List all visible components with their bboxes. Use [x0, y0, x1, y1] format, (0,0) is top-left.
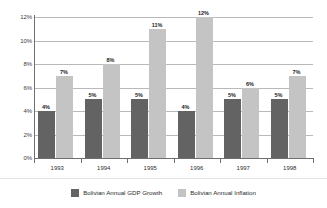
bar-value-label: 7% — [52, 69, 76, 75]
legend-swatch-icon — [71, 189, 79, 197]
x-axis-tick-mark — [313, 159, 314, 163]
x-axis-tick-label: 1995 — [128, 165, 172, 172]
x-axis-tick-label: 1994 — [82, 165, 126, 172]
x-axis-tick-label: 1993 — [35, 165, 79, 172]
bar-group: 5%6% — [220, 17, 267, 158]
bar-value-label: 12% — [192, 10, 216, 16]
y-axis-tick-label: 12% — [4, 14, 32, 20]
y-axis-tick-label: 2% — [4, 132, 32, 138]
legend-swatch-icon — [178, 189, 186, 197]
bar-value-label: 4% — [174, 104, 198, 110]
x-axis-category-labels: 199319941995199619971998 — [34, 165, 313, 175]
bar — [224, 99, 241, 158]
bar — [271, 99, 288, 158]
x-axis-tick-mark — [220, 159, 221, 163]
x-axis-tick-label: 1998 — [268, 165, 312, 172]
bar-value-label: 8% — [99, 57, 123, 63]
legend-item[interactable]: Bolivian Annual GDP Growth — [71, 189, 162, 197]
x-axis-tick-label: 1997 — [221, 165, 265, 172]
bar — [149, 29, 166, 158]
chart-legend: Bolivian Annual GDP GrowthBolivian Annua… — [0, 186, 327, 200]
bar-value-label: 5% — [81, 92, 105, 98]
legend-item[interactable]: Bolivian Annual Inflation — [178, 189, 256, 197]
y-axis-tick-label: 4% — [4, 108, 32, 114]
bar — [289, 76, 306, 158]
legend-label: Bolivian Annual Inflation — [190, 189, 256, 197]
x-axis-tick-mark — [174, 159, 175, 163]
bar — [56, 76, 73, 158]
bar-value-label: 4% — [34, 104, 58, 110]
bar-value-label: 11% — [145, 22, 169, 28]
bar — [103, 64, 120, 158]
bar — [242, 88, 259, 159]
y-axis-tick-label: 8% — [4, 61, 32, 67]
bar — [85, 99, 102, 158]
bars-layer: 4%7%5%8%5%11%4%12%5%6%5%7% — [34, 17, 313, 158]
bar-value-label: 5% — [220, 92, 244, 98]
x-axis-tick-mark — [81, 159, 82, 163]
y-axis-tick-label: 10% — [4, 38, 32, 44]
x-axis-tick-label: 1996 — [175, 165, 219, 172]
bar-chart: 0%2%4%6%8%10%12% 4%7%5%8%5%11%4%12%5%6%5… — [0, 0, 327, 208]
plot-area: 0%2%4%6%8%10%12% 4%7%5%8%5%11%4%12%5%6%5… — [0, 0, 327, 172]
bar — [131, 99, 148, 158]
bar-value-label: 5% — [267, 92, 291, 98]
bar-value-label: 7% — [285, 69, 309, 75]
bar-value-label: 6% — [238, 81, 262, 87]
x-axis-tick-mark — [34, 159, 35, 163]
bar-group: 5%7% — [267, 17, 314, 158]
y-axis-tick-label: 6% — [4, 85, 32, 91]
y-axis-tick-labels: 0%2%4%6%8%10%12% — [4, 12, 32, 162]
bar-group: 5%11% — [127, 17, 174, 158]
bar — [196, 17, 213, 158]
bar — [178, 111, 195, 158]
bar-value-label: 5% — [127, 92, 151, 98]
bar-group: 4%7% — [34, 17, 81, 158]
bar-group: 5%8% — [81, 17, 128, 158]
y-axis-tick-label: 0% — [4, 155, 32, 161]
bar-group: 4%12% — [174, 17, 221, 158]
bar — [38, 111, 55, 158]
x-axis-tick-mark — [127, 159, 128, 163]
x-axis-tick-mark — [267, 159, 268, 163]
legend-label: Bolivian Annual GDP Growth — [83, 189, 162, 197]
legend-divider — [0, 178, 327, 179]
